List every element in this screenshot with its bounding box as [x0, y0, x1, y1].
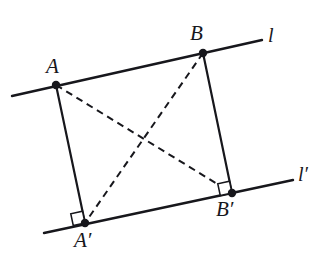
line-label-l: l: [268, 25, 274, 45]
segment-b-to-b-prime: [203, 53, 232, 193]
figure-canvas: [0, 0, 330, 277]
point-label-a-prime: A′: [74, 230, 91, 251]
point-dot-b-prime: [228, 189, 236, 197]
diagonal-a-to-b-prime: [56, 85, 232, 193]
line-label-l-prime: l′: [298, 164, 308, 184]
point-dot-a: [52, 81, 60, 89]
point-dot-b: [199, 49, 207, 57]
geometry-figure: A B A′ B′ l l′: [0, 0, 330, 277]
point-label-b-prime: B′: [216, 199, 233, 220]
point-label-a: A: [46, 56, 59, 77]
point-dot-a-prime: [81, 219, 89, 227]
point-label-b: B: [190, 23, 203, 44]
segment-a-to-a-prime: [56, 85, 85, 223]
